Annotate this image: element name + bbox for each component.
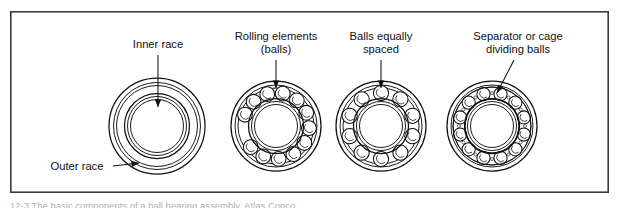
ball — [509, 143, 522, 156]
ball — [238, 107, 253, 122]
ball — [354, 145, 369, 160]
ball — [462, 96, 475, 109]
label-inner-race: Inner race — [133, 38, 183, 50]
ball — [462, 143, 475, 156]
figure-caption: 12-3 The basic components of a ball bear… — [10, 200, 295, 208]
label-line: Separator or cage — [473, 30, 563, 42]
ball — [289, 93, 304, 108]
ball — [354, 92, 369, 107]
ball — [299, 105, 314, 120]
figure-caption-strip: 12-3 The basic components of a ball bear… — [0, 200, 619, 208]
ball — [393, 145, 408, 160]
label-line: Inner race — [133, 38, 183, 50]
label-separator-cage: Separator or cagedividing balls — [473, 30, 563, 55]
label-line: spaced — [363, 43, 399, 55]
bearing-diagram-canvas: Inner raceOuter raceRolling elements(bal… — [0, 0, 619, 208]
label-outer-race: Outer race — [51, 160, 104, 172]
label-line: Balls equally — [350, 30, 413, 42]
label-line: dividing balls — [486, 43, 550, 55]
label-line: (balls) — [261, 43, 292, 55]
label-line: Rolling elements — [235, 30, 318, 42]
ball — [509, 96, 522, 109]
ball — [393, 92, 408, 107]
ball — [246, 94, 261, 109]
ball — [243, 140, 258, 155]
bearing-figure: Inner raceOuter raceRolling elements(bal… — [0, 0, 619, 208]
label-line: Outer race — [51, 160, 104, 172]
ball — [286, 147, 301, 162]
ball — [256, 149, 271, 164]
ball — [297, 136, 312, 151]
